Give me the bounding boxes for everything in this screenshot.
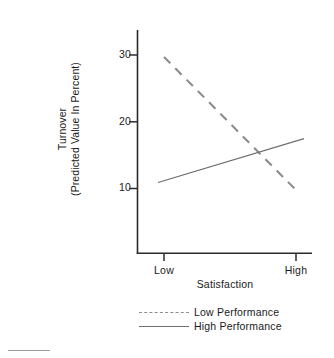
x-axis-title: Satisfaction: [137, 278, 313, 290]
legend-item-low-performance: Low Performance: [138, 305, 318, 319]
chart-legend: Low Performance High Performance: [138, 305, 318, 333]
legend-swatch-dashed-icon: [138, 307, 190, 317]
legend-label-high-performance: High Performance: [190, 320, 282, 332]
x-tick-label-low: Low: [134, 265, 194, 276]
footer-rule: [8, 350, 50, 351]
legend-swatch-solid-icon: [138, 321, 190, 331]
x-tick-label-high: High: [266, 265, 326, 276]
chart-figure: Turnover (Predicted Value In Percent) 30…: [0, 0, 334, 358]
legend-item-high-performance: High Performance: [138, 319, 318, 333]
series-line-low-performance: [164, 57, 296, 190]
legend-label-low-performance: Low Performance: [190, 306, 279, 318]
